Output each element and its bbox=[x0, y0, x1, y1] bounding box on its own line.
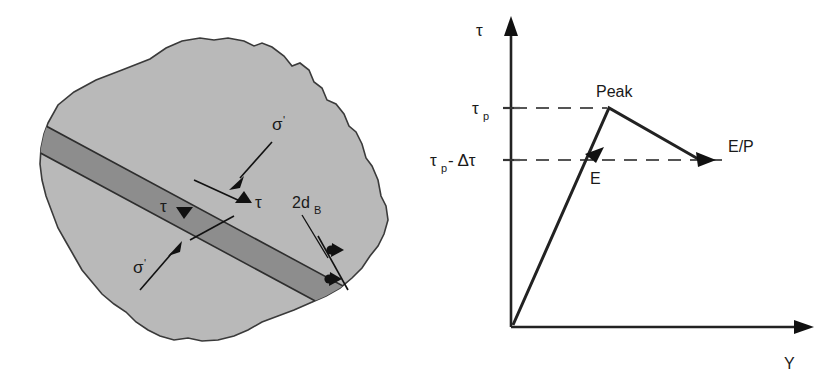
ep-arrowhead bbox=[696, 152, 716, 167]
tau-p-delta-subscript: p bbox=[441, 162, 447, 174]
figure-root: σ ' τ τ σ ' 2d B bbox=[0, 0, 829, 379]
y-tick-label-tau-p-minus-delta-tau: τ p - Δτ bbox=[430, 151, 476, 174]
tau-p-base: τ bbox=[472, 99, 479, 118]
x-axis bbox=[511, 320, 814, 334]
band-thickness-subscript: B bbox=[314, 204, 321, 216]
ep-label: E/P bbox=[728, 138, 754, 155]
tau-lower-label: τ bbox=[160, 197, 167, 216]
band-edge-dot-bottom bbox=[324, 274, 333, 283]
sigma-upper-label: σ bbox=[272, 115, 283, 134]
y-axis bbox=[504, 16, 518, 327]
sigma-upper-prime: ' bbox=[283, 114, 285, 126]
y-tick-label-tau-p: τ p bbox=[472, 99, 489, 122]
e-label: E bbox=[590, 170, 601, 187]
rock-shear-band-panel: σ ' τ τ σ ' 2d B bbox=[0, 0, 420, 379]
sigma-lower-prime: ' bbox=[144, 257, 146, 269]
x-axis-arrowhead bbox=[794, 320, 814, 334]
peak-label: Peak bbox=[596, 83, 633, 100]
tau-p-delta-base: τ bbox=[430, 151, 437, 170]
tau-upper-label: τ bbox=[255, 193, 262, 212]
stress-strain-graph-panel: τ Y τ p τ p - Δτ Peak E E/P bbox=[410, 0, 829, 379]
x-axis-label: Y bbox=[784, 355, 795, 372]
band-thickness-label: 2d bbox=[292, 194, 310, 211]
tau-p-delta-suffix: - Δτ bbox=[448, 151, 476, 170]
stress-strain-curve bbox=[513, 108, 700, 325]
y-axis-label: τ bbox=[476, 21, 483, 40]
band-edge-dot-top bbox=[326, 245, 335, 254]
y-axis-arrowhead bbox=[504, 16, 518, 36]
sigma-lower-label: σ bbox=[133, 258, 144, 277]
tau-p-subscript: p bbox=[483, 110, 489, 122]
